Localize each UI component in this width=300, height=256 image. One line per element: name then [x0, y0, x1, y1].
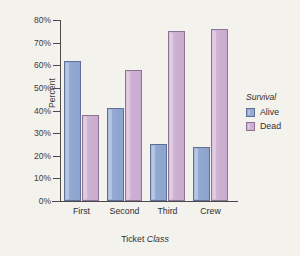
y-tick-mark [53, 65, 60, 66]
y-tick-label: 80% [34, 16, 51, 25]
x-tick-label-crew: Crew [189, 206, 232, 216]
bar-first-alive[interactable] [64, 61, 81, 201]
x-tick-label-first: First [60, 206, 103, 216]
y-tick-label: 40% [34, 106, 51, 115]
y-tick-label: 0% [39, 197, 51, 206]
bar-group [189, 20, 232, 201]
y-tick-mark [53, 133, 60, 134]
y-tick-label: 20% [34, 152, 51, 161]
bar-third-dead[interactable] [168, 31, 185, 201]
legend-swatch-dead-icon [246, 122, 255, 131]
y-tick-label: 50% [34, 84, 51, 93]
y-tick-label: 70% [34, 38, 51, 47]
bar-crew-dead[interactable] [211, 29, 228, 201]
y-tick-label: 30% [34, 129, 51, 138]
bar-third-alive[interactable] [150, 144, 167, 201]
bar-second-dead[interactable] [125, 70, 142, 201]
y-tick-mark [53, 43, 60, 44]
x-tick-label-second: Second [103, 206, 146, 216]
bar-group [103, 20, 146, 201]
x-axis-title-plain: Ticket [121, 234, 144, 244]
legend: Survival Alive Dead [246, 92, 281, 135]
legend-item-dead[interactable]: Dead [246, 121, 281, 131]
bar-group [60, 20, 103, 201]
bar-group [146, 20, 189, 201]
plot-area: 0%10%20%30%40%50%60%70%80% [60, 20, 232, 201]
bar-first-dead[interactable] [82, 115, 99, 201]
x-axis-line [52, 201, 238, 202]
legend-label-alive: Alive [260, 107, 279, 117]
legend-label-dead: Dead [260, 121, 281, 131]
x-tick-label-third: Third [146, 206, 189, 216]
x-axis-title-italic: Class [147, 234, 169, 244]
y-tick-mark [53, 178, 60, 179]
y-tick-mark [53, 20, 60, 21]
y-tick-mark [53, 111, 60, 112]
legend-item-alive[interactable]: Alive [246, 107, 281, 117]
x-axis-title: Ticket Class [52, 234, 238, 244]
y-tick-mark [53, 201, 60, 202]
y-tick-label: 10% [34, 174, 51, 183]
bar-crew-alive[interactable] [193, 147, 210, 201]
legend-title: Survival [246, 92, 281, 102]
bar-chart-figure: Percent 0%10%20%30%40%50%60%70%80% First… [0, 0, 300, 256]
y-tick-mark [53, 156, 60, 157]
legend-swatch-alive-icon [246, 108, 255, 117]
bar-second-alive[interactable] [107, 108, 124, 201]
y-tick-label: 60% [34, 61, 51, 70]
y-tick-mark [53, 88, 60, 89]
